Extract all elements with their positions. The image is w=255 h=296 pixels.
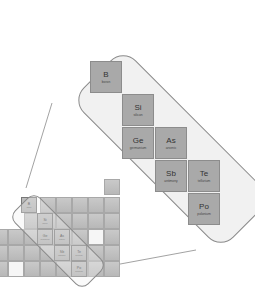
element-symbol: Te [200,169,208,178]
mini-cell [40,261,56,277]
mini-cell [0,245,8,261]
mini-cell [24,245,40,261]
mini-cell [104,197,120,213]
element-name: boron [102,80,110,85]
mini-cell [88,213,104,229]
element-symbol: Po [199,202,209,211]
mini-cell [8,245,24,261]
mini-cell [104,213,120,229]
mini-cell [56,197,72,213]
mini-cell [104,179,120,195]
element-symbol: Ge [133,136,144,145]
mini-cell [104,261,120,277]
element-cell-polonium: Po polonium [188,193,220,225]
mini-cell [72,197,88,213]
element-cell-boron: B boron [90,61,122,93]
mini-cell [24,261,40,277]
element-name: germanium [130,146,147,151]
element-cell-tellurium: Te tellurium [188,160,220,192]
mini-cell [0,261,8,277]
element-name: arsenic [166,146,177,151]
element-symbol: B [103,70,108,79]
element-symbol: Sb [166,169,176,178]
element-symbol: Si [134,103,141,112]
mini-cell [104,229,120,245]
mini-cell [88,197,104,213]
element-name: tellurium [198,179,210,184]
mini-cell [8,229,24,245]
element-name: silicon [133,113,142,118]
element-name: antimony [164,179,177,184]
element-symbol: As [166,136,175,145]
element-cell-germanium: Ge germanium [122,127,154,159]
mini-cell [88,229,104,245]
mini-cell [8,261,24,277]
mini-cell [104,245,120,261]
element-cell-antimony: Sb antimony [155,160,187,192]
mini-cell [72,213,88,229]
element-cell-silicon: Si silicon [122,94,154,126]
mini-cell [0,229,8,245]
element-cell-arsenic: As arsenic [155,127,187,159]
element-name: polonium [197,212,210,217]
